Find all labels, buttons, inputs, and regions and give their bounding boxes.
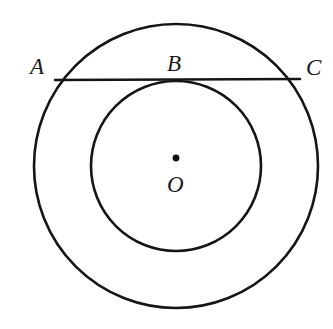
chord-line-ac (55, 79, 300, 80)
point-label-a: A (30, 55, 44, 78)
center-point-dot (173, 155, 180, 162)
geometry-canvas (0, 0, 333, 329)
geometry-figure: A B C O (0, 0, 333, 329)
point-label-c: C (306, 56, 321, 79)
center-label-o: O (167, 173, 184, 196)
inner-circle (91, 81, 261, 251)
point-label-b: B (167, 52, 181, 75)
